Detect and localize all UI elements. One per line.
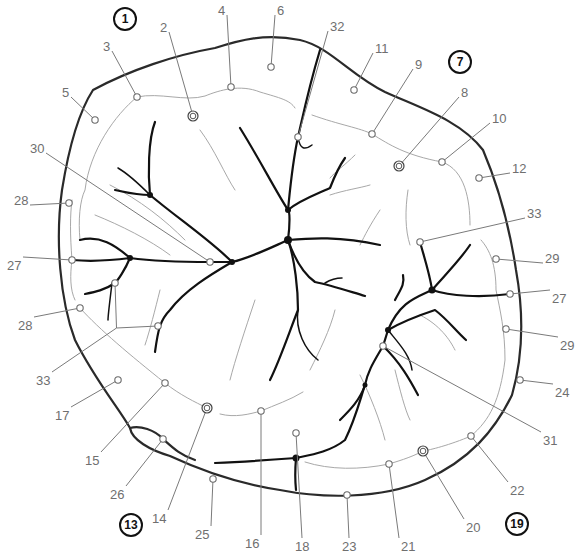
landmark-label: 15: [85, 453, 99, 468]
leader-line: [442, 123, 490, 162]
landmark-label: 26: [110, 487, 124, 502]
landmark-label: 29: [545, 251, 559, 266]
landmark-point: [115, 377, 121, 383]
leader-line: [168, 408, 207, 510]
landmark-label: 24: [555, 385, 569, 400]
leader-line: [115, 283, 117, 328]
landmark-pit-point-inner: [190, 113, 196, 119]
landmark-label: 16: [245, 536, 259, 551]
landmark-point: [295, 134, 301, 140]
leader-line: [347, 495, 349, 538]
landmark-label: 2: [160, 20, 167, 35]
landmark-point: [69, 257, 75, 263]
landmark-label: 28: [18, 318, 32, 333]
landmark-label: 27: [7, 258, 21, 273]
landmark-label: 3: [103, 39, 110, 54]
landmark-point: [112, 280, 118, 286]
leader-line: [71, 97, 95, 120]
leader-line: [101, 383, 165, 452]
landmark-label: 17: [55, 408, 69, 423]
landmark-labels: 2345632119810123028332729272829331724311…: [7, 3, 574, 554]
landmark-label: 30: [30, 141, 44, 156]
fissure-lines: [72, 50, 510, 490]
landmark-label: 9: [415, 57, 422, 72]
landmark-point: [66, 200, 72, 206]
landmark-label: 20: [466, 520, 480, 535]
landmark-point: [155, 323, 161, 329]
landmark-point: [134, 94, 140, 100]
landmark-point: [369, 131, 375, 137]
landmark-point: [439, 159, 445, 165]
cusp-marker-label: 7: [457, 55, 464, 69]
leader-line: [271, 15, 275, 67]
leader-line: [211, 479, 213, 526]
landmark-pit-point-inner: [204, 405, 210, 411]
cusp-marker-label: 19: [510, 517, 524, 531]
landmark-label: 4: [218, 3, 225, 18]
landmark-point: [386, 461, 392, 467]
landmark-pit-point-inner: [396, 163, 402, 169]
leader-line: [30, 203, 69, 205]
leader-line: [112, 51, 137, 97]
landmark-point: [507, 291, 513, 297]
landmark-point: [476, 175, 482, 181]
landmark-label: 29: [560, 338, 574, 353]
cusp-marker-label: 13: [124, 518, 138, 532]
landmark-pit-point-inner: [420, 448, 426, 454]
label-leaders: [23, 15, 558, 538]
landmark-point: [344, 492, 350, 498]
leader-line: [506, 329, 558, 337]
landmark-label: 18: [295, 539, 309, 554]
leader-line: [296, 433, 302, 538]
leader-line: [389, 464, 399, 538]
leader-line: [510, 290, 550, 294]
leader-line: [383, 346, 541, 432]
landmark-label: 12: [512, 161, 526, 176]
landmark-label: 21: [401, 539, 415, 554]
landmark-label: 32: [330, 19, 344, 34]
landmark-label: 22: [510, 483, 524, 498]
landmark-point: [493, 256, 499, 262]
landmark-point: [351, 87, 357, 93]
landmark-point: [417, 239, 423, 245]
landmark-point: [228, 84, 234, 90]
ridge-lines: [71, 88, 506, 468]
landmark-point: [380, 343, 386, 349]
leader-line: [496, 259, 543, 263]
leader-line: [298, 31, 328, 137]
landmark-point: [207, 259, 213, 265]
landmark-point: [210, 476, 216, 482]
tooth-occlusal-diagram: 2345632119810123028332729272829331724311…: [0, 0, 582, 556]
landmark-label: 5: [62, 85, 69, 100]
landmark-label: 6: [277, 3, 284, 18]
landmark-label: 31: [543, 433, 557, 448]
landmark-point: [162, 380, 168, 386]
leader-line: [34, 308, 80, 317]
leader-line: [227, 15, 231, 87]
leader-line: [117, 326, 159, 328]
landmark-label: 33: [36, 373, 50, 388]
landmark-point: [293, 430, 299, 436]
landmark-point: [92, 117, 98, 123]
landmark-label: 11: [375, 41, 389, 56]
leader-line: [71, 380, 118, 407]
landmark-points: [66, 64, 523, 498]
landmark-label: 23: [342, 539, 356, 554]
crown-outline-bulge: [130, 427, 195, 460]
landmark-label: 14: [152, 511, 166, 526]
leader-line: [52, 328, 117, 372]
landmark-point: [503, 326, 509, 332]
landmark-label: 27: [552, 291, 566, 306]
landmark-point: [468, 433, 474, 439]
leader-line: [169, 32, 193, 116]
landmark-point: [268, 64, 274, 70]
landmark-point: [258, 408, 264, 414]
leader-line: [23, 257, 72, 260]
landmark-point: [160, 436, 166, 442]
cusp-marker-label: 1: [122, 12, 129, 26]
leader-line: [520, 380, 553, 384]
landmark-point: [517, 377, 523, 383]
landmark-label: 33: [527, 206, 541, 221]
leader-line: [471, 436, 508, 482]
landmark-label: 8: [461, 85, 468, 100]
